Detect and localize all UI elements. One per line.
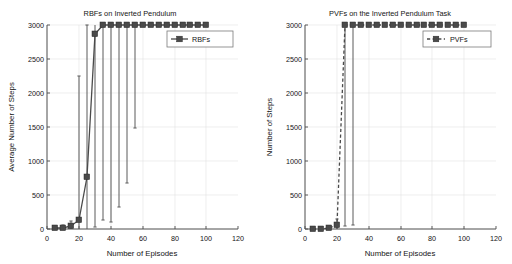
ytick-label: 0: [40, 225, 44, 234]
xtick-label: 80: [171, 234, 179, 243]
ytick-labels-pvfs: 3000 2500 2000 1500 1000 500 0: [286, 21, 302, 234]
ytick-label: 3000: [28, 21, 44, 30]
grid-lines-pvfs: [305, 25, 496, 229]
xtick-labels-pvfs: 0 20 40 60 80 100 120: [303, 234, 502, 243]
legend-rbfs[interactable]: RBFs: [167, 31, 233, 47]
figure-container: RBFs on Inverted Pendulum: [0, 0, 512, 264]
chart-panel-rbfs: RBFs on Inverted Pendulum: [0, 0, 256, 264]
ytick-label: 1500: [286, 123, 302, 132]
xtick-label: 120: [490, 234, 502, 243]
ytick-label: 2500: [286, 55, 302, 64]
xtick-label: 20: [333, 234, 341, 243]
xtick-label: 0: [303, 234, 307, 243]
xtick-label: 100: [200, 234, 212, 243]
series-line-rbfs: [55, 25, 206, 228]
chart-title-pvfs: PVFs on the Inverted Pendulum Task: [329, 9, 451, 18]
xaxis-label-rbfs: Number of Episodes: [107, 249, 178, 258]
xtick-label: 0: [45, 234, 49, 243]
chart-panel-pvfs: PVFs on the Inverted Pendulum Task: [256, 0, 512, 264]
chart-title-rbfs: RBFs on Inverted Pendulum: [84, 9, 177, 18]
markers-rbfs: [52, 22, 209, 231]
ytick-label: 0: [298, 225, 302, 234]
rbfs-svg: RBFs on Inverted Pendulum: [0, 0, 256, 264]
legend-pvfs[interactable]: PVFs: [423, 31, 491, 47]
legend-label-rbfs: RBFs: [192, 35, 210, 44]
pvfs-svg: PVFs on the Inverted Pendulum Task: [256, 0, 512, 264]
ytick-label: 2500: [28, 55, 44, 64]
ytick-labels-rbfs: 3000 2500 2000 1500 1000 500 0: [28, 21, 44, 234]
yaxis-label-rbfs: Average Number of Steps: [7, 82, 16, 172]
xtick-label: 100: [458, 234, 470, 243]
xtick-label: 20: [75, 234, 83, 243]
xtick-label: 60: [139, 234, 147, 243]
xtick-label: 80: [428, 234, 436, 243]
xtick-label: 60: [397, 234, 405, 243]
ytick-label: 1000: [286, 157, 302, 166]
ytick-label: 3000: [286, 21, 302, 30]
xtick-labels-rbfs: 0 20 40 60 80 100 120: [45, 234, 244, 243]
legend-label-pvfs: PVFs: [450, 35, 468, 44]
ytick-label: 1000: [28, 157, 44, 166]
ytick-label: 2000: [286, 89, 302, 98]
yaxis-label-pvfs: Number of Steps: [265, 98, 274, 157]
xtick-label: 120: [232, 234, 244, 243]
xtick-label: 40: [365, 234, 373, 243]
xtick-label: 40: [107, 234, 115, 243]
ytick-label: 1500: [28, 123, 44, 132]
ytick-label: 2000: [28, 89, 44, 98]
grid-lines-rbfs: [47, 25, 238, 229]
ytick-label: 500: [32, 191, 44, 200]
ytick-label: 500: [290, 191, 302, 200]
xaxis-label-pvfs: Number of Episodes: [365, 249, 436, 258]
